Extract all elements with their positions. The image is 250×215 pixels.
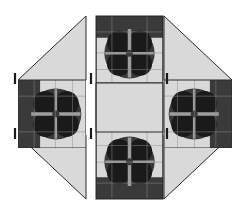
motif-center-knot xyxy=(52,110,59,117)
center-column-panel xyxy=(96,16,163,199)
block-diagram-svg xyxy=(0,0,250,215)
diagram-canvas xyxy=(0,0,250,215)
flower-motif-bottom xyxy=(96,132,163,199)
motif-center-knot xyxy=(191,110,198,117)
flower-motif-right xyxy=(164,80,232,148)
center-middle-square xyxy=(96,83,163,132)
flower-motif-left xyxy=(18,80,86,148)
flower-motif-top xyxy=(96,16,163,83)
motif-center-knot xyxy=(126,158,133,165)
motif-center-knot xyxy=(126,50,133,57)
